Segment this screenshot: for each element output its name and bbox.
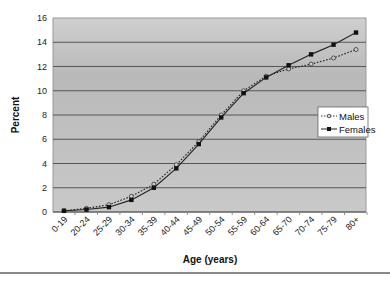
x-tick-label: 0-19 [50, 214, 70, 234]
data-point-marker [286, 63, 290, 67]
y-tick-label: 16 [37, 13, 47, 23]
y-tick-label: 0 [42, 207, 47, 217]
x-tick-label: 35-39 [136, 214, 159, 237]
legend-label-males: Males [339, 111, 365, 122]
x-axis-title: Age (years) [183, 254, 237, 265]
x-tick-label: 25-29 [91, 214, 114, 237]
data-point-marker [354, 30, 358, 34]
y-tick-label: 6 [42, 134, 47, 144]
y-tick-label: 14 [37, 37, 47, 47]
y-tick-label: 2 [42, 183, 47, 193]
x-tick-label: 45-49 [181, 214, 204, 237]
data-point-marker [197, 142, 201, 146]
data-point-marker [107, 205, 111, 209]
data-point-marker [129, 194, 133, 198]
data-point-marker [241, 91, 245, 95]
data-point-marker [287, 67, 291, 71]
y-tick-label: 8 [42, 110, 47, 120]
x-tick-label: 80+ [344, 214, 362, 232]
data-point-marker [152, 186, 156, 190]
bottom-divider [0, 272, 390, 274]
data-point-marker [264, 75, 268, 79]
x-tick-label: 40-44 [158, 214, 181, 237]
y-tick-label: 4 [42, 159, 47, 169]
y-axis-title: Percent [10, 96, 21, 133]
data-point-marker [129, 198, 133, 202]
data-point-marker [174, 166, 178, 170]
y-tick-label: 10 [37, 86, 47, 96]
y-tick-label: 12 [37, 62, 47, 72]
data-point-marker [309, 62, 313, 66]
x-tick-label: 60-64 [248, 214, 271, 237]
legend-label-females: Females [339, 124, 376, 135]
x-tick-label: 50-54 [203, 214, 226, 237]
legend: Males Females [318, 107, 376, 137]
x-axis-ticks: 0-1920-2425-2930-3435-3940-4445-4950-545… [50, 212, 367, 238]
data-point-marker [152, 182, 156, 186]
data-point-marker [219, 115, 223, 119]
x-tick-label: 70-74 [293, 214, 316, 237]
data-point-marker [332, 56, 336, 60]
x-tick-label: 55-59 [226, 214, 249, 237]
x-tick-label: 30-34 [113, 214, 136, 237]
data-point-marker [354, 48, 358, 52]
x-tick-label: 65-70 [271, 214, 294, 237]
data-point-marker [62, 209, 66, 213]
square-marker-icon [327, 127, 331, 131]
data-point-marker [331, 42, 335, 46]
y-axis-ticks: 0246810121416 [37, 13, 47, 217]
data-point-marker [309, 52, 313, 56]
x-tick-label: 75-79 [316, 214, 339, 237]
line-chart: 0246810121416 0-1920-2425-2930-3435-3940… [0, 0, 390, 285]
data-point-marker [84, 207, 88, 211]
circle-marker-icon [327, 114, 331, 118]
x-tick-label: 20-24 [69, 214, 92, 237]
